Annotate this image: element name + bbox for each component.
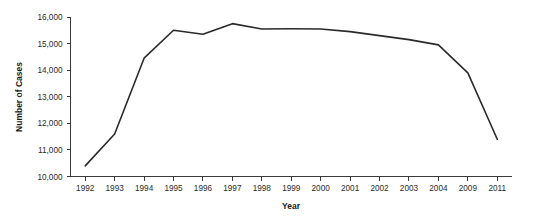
x-tick-label: 2011: [488, 184, 506, 193]
x-tick-label: 1995: [164, 184, 183, 193]
line-chart-figure: 10,00011,00012,00013,00014,00015,00016,0…: [0, 0, 533, 216]
y-axis-title: Number of Cases: [14, 62, 24, 132]
y-tick-label: 10,000: [37, 173, 62, 182]
x-axis-title: Year: [282, 201, 301, 211]
y-tick-label: 12,000: [37, 119, 62, 128]
x-tick-label: 1993: [106, 184, 125, 193]
x-tick-label: 2004: [429, 184, 448, 193]
x-tick-label: 2001: [341, 184, 360, 193]
x-tick-label: 2009: [459, 184, 478, 193]
y-tick-label: 14,000: [37, 66, 62, 75]
chart-canvas: 10,00011,00012,00013,00014,00015,00016,0…: [0, 0, 533, 216]
x-tick-label: 2000: [312, 184, 331, 193]
x-tick-label: 1997: [223, 184, 242, 193]
x-tick-label: 2002: [370, 184, 389, 193]
y-tick-label: 11,000: [38, 146, 63, 155]
x-tick-label: 1996: [194, 184, 213, 193]
y-tick-label: 15,000: [37, 40, 62, 49]
x-tick-label: 1992: [76, 184, 95, 193]
x-tick-label: 1999: [282, 184, 301, 193]
x-tick-label: 1994: [135, 184, 154, 193]
y-tick-label: 16,000: [37, 13, 62, 22]
y-tick-label: 13,000: [37, 93, 62, 102]
x-tick-label: 2003: [400, 184, 419, 193]
x-tick-label: 1998: [253, 184, 272, 193]
